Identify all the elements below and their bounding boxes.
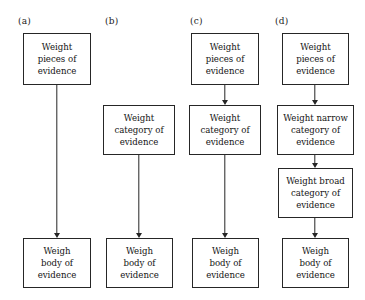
arrow-shaft	[224, 155, 225, 234]
panel-label-1: (b)	[105, 16, 118, 26]
process-box-a-body: Weigh body of evidence	[23, 238, 91, 288]
panel-label-2: (c)	[190, 16, 203, 26]
process-box-d-body: Weigh body of evidence	[282, 238, 349, 288]
process-box-d-pieces: Weight pieces of evidence	[282, 33, 349, 85]
arrow-shaft	[138, 155, 139, 234]
panel-label-0: (a)	[18, 16, 31, 26]
process-box-label: Weight pieces of evidence	[285, 41, 346, 78]
arrow-shaft	[224, 85, 225, 101]
process-box-label: Weigh body of evidence	[285, 245, 346, 282]
process-box-c-body: Weigh body of evidence	[192, 238, 259, 288]
process-box-label: Weight pieces of evidence	[26, 41, 88, 78]
process-box-d-narrow: Weight narrow category of evidence	[277, 105, 354, 155]
process-box-label: Weigh body of evidence	[109, 245, 170, 282]
process-box-b-category: Weight category of evidence	[103, 105, 175, 155]
process-box-label: Weigh body of evidence	[26, 245, 88, 282]
process-box-c-pieces: Weight pieces of evidence	[191, 33, 259, 85]
process-box-c-category: Weight category of evidence	[189, 105, 261, 155]
evidence-weighting-figure: (a)Weight pieces of evidenceWeigh body o…	[0, 0, 365, 300]
process-box-a-pieces: Weight pieces of evidence	[23, 33, 91, 85]
process-box-b-body: Weigh body of evidence	[106, 238, 173, 288]
arrow-shaft	[56, 85, 57, 234]
process-box-label: Weight category of evidence	[106, 112, 172, 149]
process-box-label: Weigh body of evidence	[195, 245, 256, 282]
process-box-d-broad: Weight broad category of evidence	[278, 168, 353, 218]
process-box-label: Weight category of evidence	[192, 112, 258, 149]
process-box-label: Weight pieces of evidence	[194, 41, 256, 78]
process-box-label: Weight narrow category of evidence	[280, 112, 351, 149]
arrow-shaft	[314, 218, 315, 234]
process-box-label: Weight broad category of evidence	[281, 175, 350, 212]
arrow-shaft	[314, 85, 315, 101]
panel-label-3: (d)	[275, 16, 288, 26]
